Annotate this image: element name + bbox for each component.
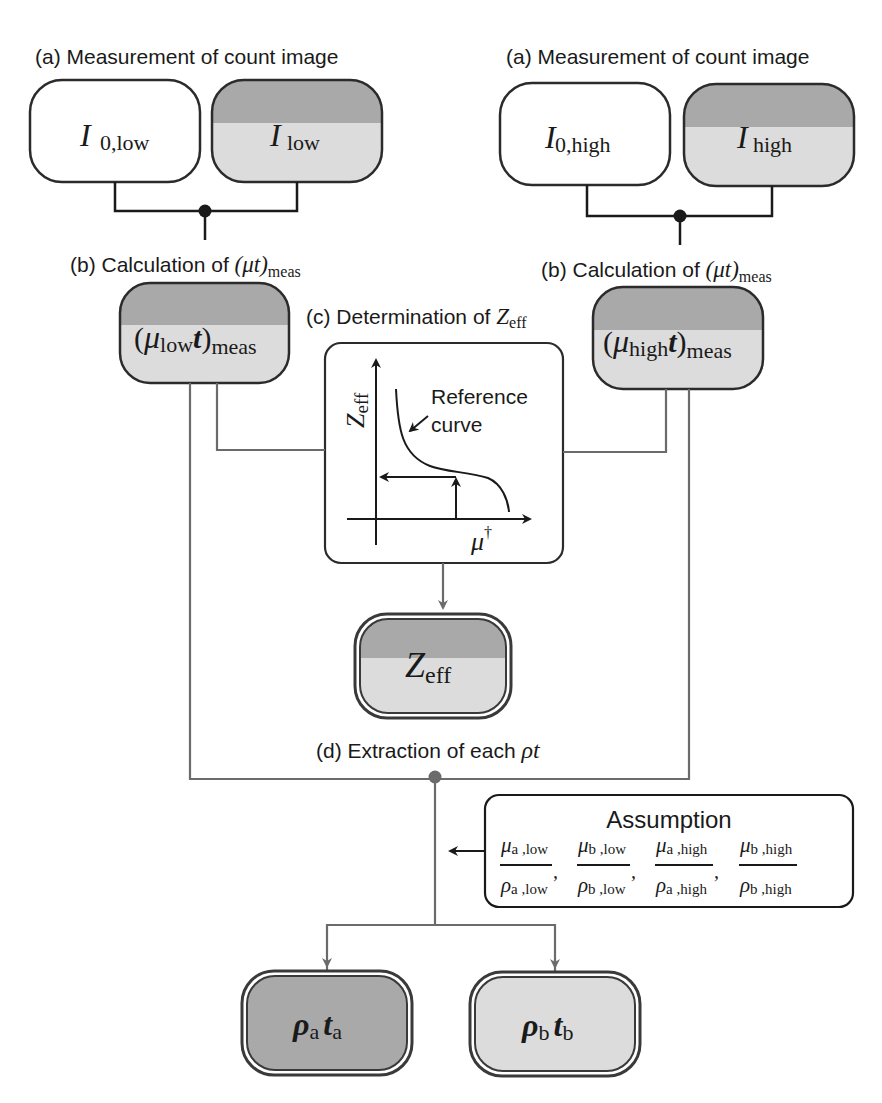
curve-label-line1: Reference xyxy=(431,385,528,408)
step-c-label: (c) Determination of Zeff xyxy=(306,304,527,331)
zeff-result-box: Zeff xyxy=(355,614,511,718)
output-rho-b-t-b: ρbtb xyxy=(470,972,640,1076)
box-i-low: I low xyxy=(212,80,382,182)
svg-text:,: , xyxy=(714,860,719,882)
box-i-high: I high xyxy=(684,84,854,186)
right-step-a-label: (a) Measurement of count image xyxy=(506,45,809,68)
svg-text:,: , xyxy=(553,860,558,882)
reference-plot-panel xyxy=(325,343,563,563)
fraction-mu-b-high: μb ,high ρb ,high xyxy=(739,833,797,897)
box-i0-high-sub: 0,high xyxy=(555,132,611,157)
box-i0-low-sub: 0,low xyxy=(100,130,150,155)
box-i-low-main: I xyxy=(269,117,282,153)
right-to-plot-connector xyxy=(563,389,666,452)
curve-label-line2: curve xyxy=(431,413,482,436)
right-step-b-label: (b) Calculation of (μt)meas xyxy=(541,257,772,285)
assumption-box: Assumption μa ,low ρa ,low , μb ,low ρb … xyxy=(450,795,853,907)
box-i-high-sub: high xyxy=(753,132,792,157)
diagram-svg: (a) Measurement of count image I 0,low I… xyxy=(0,0,882,1103)
box-i0-high: I 0,high xyxy=(500,83,670,185)
flowchart-diagram: (a) Measurement of count image I 0,low I… xyxy=(0,0,882,1103)
left-to-plot-connector xyxy=(217,383,325,450)
right-branch: (a) Measurement of count image I 0,high … xyxy=(500,45,854,389)
output-rho-a-t-a: ρata xyxy=(242,971,412,1075)
left-step-b-label: (b) Calculation of (μt)meas xyxy=(70,252,301,280)
left-step-a-label: (a) Measurement of count image xyxy=(35,45,338,68)
box-i0-low: I 0,low xyxy=(30,80,200,182)
box-mu-high-t-meas: (μhight)meas xyxy=(593,287,763,389)
svg-text:,: , xyxy=(631,860,636,882)
step-d-label: (d) Extraction of each ρt xyxy=(316,737,541,763)
box-i0-low-main: I xyxy=(79,117,92,153)
box-mu-low-t-meas: (μlowt)meas xyxy=(120,283,289,383)
box-i-high-main: I xyxy=(736,119,749,155)
assumption-title: Assumption xyxy=(606,806,731,833)
left-branch: (a) Measurement of count image I 0,low I… xyxy=(30,45,382,383)
box-i-low-sub: low xyxy=(287,130,320,155)
